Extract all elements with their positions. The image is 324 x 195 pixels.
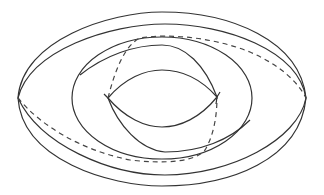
meridian-lower-hidden — [18, 97, 217, 162]
outer-boundary-upper — [18, 12, 306, 98]
inner-rim-lower — [18, 98, 306, 175]
outer-boundary-lower — [18, 98, 306, 186]
torus-diagram — [0, 0, 324, 195]
hole-lens-lower — [108, 97, 217, 127]
middle-loop — [72, 37, 252, 159]
hole-lens-upper — [104, 70, 220, 98]
inner-rim-upper — [18, 24, 306, 98]
